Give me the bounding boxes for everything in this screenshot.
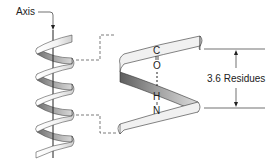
arrow-down-icon: [234, 102, 238, 107]
small-helix: [36, 30, 75, 158]
axis-leader-line: [38, 12, 53, 26]
atom-carbon: C: [153, 45, 160, 56]
axis-label: Axis: [16, 6, 35, 17]
axis-label-group: Axis: [16, 6, 55, 30]
residue-dimension: 3.6 Residues: [204, 49, 265, 108]
arrow-up-icon: [234, 50, 238, 55]
atom-oxygen: O: [153, 60, 161, 71]
axis-arrow-icon: [51, 25, 55, 30]
atom-hydrogen: H: [153, 91, 160, 102]
enlarged-helix-segment: C O H N: [118, 36, 202, 134]
alpha-helix-diagram: Axis C O: [0, 0, 280, 168]
zoom-connector: [76, 35, 116, 133]
residues-label: 3.6 Residues: [207, 73, 265, 84]
atom-nitrogen: N: [153, 105, 160, 116]
